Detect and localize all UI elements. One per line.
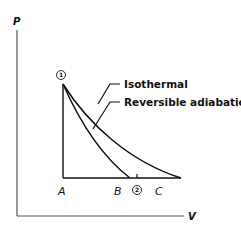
point-c-label: C [155,185,163,198]
state2-number: 2 [135,186,139,193]
isothermal-label: Isothermal [124,78,188,90]
state1-number: 1 [59,71,63,78]
adiabatic-leader [93,102,120,129]
point-b-label: B [114,185,122,198]
adiabatic-label: Reversible adiabatic [124,96,241,108]
pv-diagram-canvas: P V Isothermal Reversible adiabatic 1 A … [0,0,241,235]
v-axis-label: V [188,211,197,222]
pv-diagram: P V Isothermal Reversible adiabatic 1 A … [0,0,241,235]
point-a-label: A [57,185,66,198]
isothermal-leader [98,84,120,104]
p-axis-label: P [13,16,21,27]
